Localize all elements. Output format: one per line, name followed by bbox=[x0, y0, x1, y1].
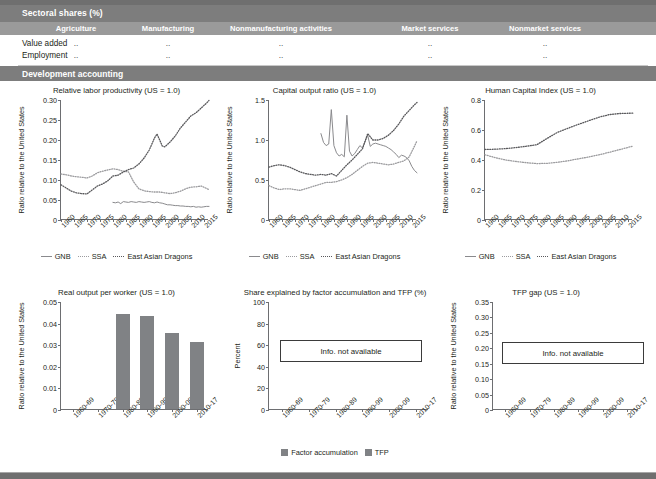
chart-plot-area: 00.010.020.030.040.051960-691970-791980-… bbox=[60, 302, 208, 410]
chart-y-tick-mark bbox=[490, 364, 493, 365]
info-not-available-box: Info. not available bbox=[502, 342, 644, 364]
table-column-header: Nonmanufacturing activities bbox=[191, 24, 371, 33]
chart-tfp-gap: TFP gap (US = 1.0)Ratio relative to the … bbox=[446, 288, 646, 463]
chart-y-tick-mark bbox=[490, 302, 493, 303]
chart-series-line bbox=[485, 113, 633, 149]
legend-label: Factor accumulation bbox=[291, 448, 358, 457]
chart-legend: GNBSSAEast Asian Dragons bbox=[14, 252, 219, 261]
chart-y-tick-mark bbox=[58, 388, 61, 389]
section-header-development-accounting-label: Development accounting bbox=[22, 69, 123, 79]
chart-series-layer bbox=[269, 100, 417, 220]
chart-y-axis-label: Ratio relative to the United States bbox=[441, 100, 450, 220]
chart-y-tick-mark bbox=[58, 324, 61, 325]
chart-y-tick-mark bbox=[266, 410, 269, 411]
legend-swatch-icon bbox=[249, 256, 260, 257]
section-header-sectoral-shares-label: Sectoral shares (%) bbox=[22, 8, 103, 18]
section-header-sectoral-shares: Sectoral shares (%) bbox=[0, 5, 656, 22]
chart-y-tick-mark bbox=[490, 410, 493, 411]
chart-y-axis-label: Ratio relative to the United States bbox=[17, 302, 26, 410]
legend-swatch-icon bbox=[41, 256, 52, 257]
chart-relative-labor-productivity: Relative labor productivity (US = 1.0)Ra… bbox=[14, 86, 219, 256]
chart-plot-area: 00.51.01.5196019651970197519801985199019… bbox=[268, 100, 416, 220]
chart-y-tick-mark bbox=[266, 345, 269, 346]
chart-x-tick-label: 1970-79 bbox=[529, 396, 552, 419]
legend-item: GNB bbox=[249, 252, 279, 261]
chart-x-tick-label: 2000-09 bbox=[388, 396, 411, 419]
chart-x-tick-label: 1980-89 bbox=[335, 396, 358, 419]
chart-title: Share explained by factor accumulation a… bbox=[230, 288, 440, 297]
table-cell: .. bbox=[525, 51, 565, 60]
chart-x-tick-label: 1960-69 bbox=[72, 396, 95, 419]
table-cell: .. bbox=[56, 51, 96, 60]
legend-label: East Asian Dragons bbox=[551, 252, 616, 261]
chart-y-tick-mark bbox=[490, 395, 493, 396]
chart-title: Relative labor productivity (US = 1.0) bbox=[14, 86, 219, 95]
chart-plot-area: 00.050.100.150.200.250.30196019651970197… bbox=[60, 100, 208, 220]
legend-label: GNB bbox=[263, 252, 279, 261]
chart-y-axis-label: Ratio relative to the United States bbox=[449, 302, 458, 410]
chart-series-layer bbox=[61, 100, 209, 220]
chart-y-tick-mark bbox=[58, 302, 61, 303]
chart-y-tick-mark bbox=[58, 345, 61, 346]
chart-x-tick-label: 2000-09 bbox=[602, 396, 625, 419]
chart-x-tick-label: 2010-17 bbox=[626, 396, 649, 419]
legend-label: East Asian Dragons bbox=[127, 252, 192, 261]
chart-title: Real output per worker (US = 1.0) bbox=[14, 288, 219, 297]
legend-swatch-icon bbox=[113, 256, 124, 257]
chart-series-line bbox=[269, 141, 417, 191]
info-not-available-box: Info. not available bbox=[280, 340, 422, 362]
chart-x-tick-label: 1980-89 bbox=[553, 396, 576, 419]
legend-swatch-icon bbox=[286, 256, 297, 257]
legend-swatch-icon bbox=[281, 449, 288, 456]
table-cell: .. bbox=[261, 51, 301, 60]
legend-label: TFP bbox=[375, 448, 389, 457]
chart-series-line bbox=[61, 100, 209, 194]
legend-item: TFP bbox=[365, 448, 389, 457]
chart-real-output-per-worker: Real output per worker (US = 1.0)Ratio r… bbox=[14, 288, 219, 463]
legend-item: East Asian Dragons bbox=[113, 252, 192, 261]
chart-bar bbox=[190, 342, 204, 409]
table-cell: .. bbox=[148, 51, 188, 60]
chart-series-line bbox=[61, 169, 209, 194]
legend-item: GNB bbox=[465, 252, 495, 261]
bottom-rule bbox=[0, 473, 656, 479]
chart-x-tick-label: 2010-17 bbox=[415, 396, 438, 419]
legend-swatch-icon bbox=[321, 256, 332, 257]
chart-y-axis-label: Ratio relative to the United States bbox=[225, 100, 234, 220]
chart-bar bbox=[116, 314, 130, 409]
legend-item: East Asian Dragons bbox=[321, 252, 400, 261]
table-row: Employment.......... bbox=[0, 47, 656, 66]
chart-title: Capital output ratio (US = 1.0) bbox=[222, 86, 427, 95]
legend-item: GNB bbox=[41, 252, 71, 261]
chart-series-layer bbox=[485, 100, 633, 220]
legend-label: SSA bbox=[92, 252, 107, 261]
legend-label: GNB bbox=[479, 252, 495, 261]
table-cell: .. bbox=[410, 51, 450, 60]
report-page: Sectoral shares (%) AgricultureManufactu… bbox=[0, 0, 656, 479]
chart-series-line bbox=[269, 102, 417, 176]
legend-item: Factor accumulation bbox=[281, 448, 358, 457]
legend-label: SSA bbox=[300, 252, 315, 261]
chart-share-explained-factor-accumulation-tfp: Share explained by factor accumulation a… bbox=[230, 288, 440, 463]
chart-human-capital-index: Human Capital Index (US = 1.0)Ratio rela… bbox=[438, 86, 643, 256]
legend-label: SSA bbox=[516, 252, 531, 261]
chart-y-tick-mark bbox=[490, 379, 493, 380]
legend-swatch-icon bbox=[502, 256, 513, 257]
chart-y-tick-mark bbox=[490, 333, 493, 334]
table-column-header-row: AgricultureManufacturingNonmanufacturing… bbox=[0, 22, 656, 35]
legend-label: GNB bbox=[55, 252, 71, 261]
chart-y-tick-mark bbox=[266, 324, 269, 325]
chart-bar bbox=[165, 333, 179, 409]
table-column-header: Market services bbox=[370, 24, 490, 33]
chart-title: TFP gap (US = 1.0) bbox=[446, 288, 646, 297]
chart-x-tick-label: 1990-99 bbox=[361, 396, 384, 419]
chart-y-tick-mark bbox=[490, 348, 493, 349]
chart-x-tick-label: 1990-99 bbox=[577, 396, 600, 419]
chart-x-tick-label: 1960-69 bbox=[504, 396, 527, 419]
legend-swatch-icon bbox=[78, 256, 89, 257]
chart-y-tick-mark bbox=[266, 367, 269, 368]
chart-y-axis-label: Ratio relative to the United States bbox=[17, 100, 26, 220]
chart-y-tick-mark bbox=[58, 367, 61, 368]
table-column-header: Nonmarket services bbox=[485, 24, 605, 33]
chart-title: Human Capital Index (US = 1.0) bbox=[438, 86, 643, 95]
